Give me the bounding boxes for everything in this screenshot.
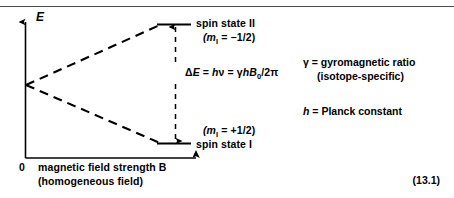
- field-symbol: B: [249, 66, 257, 78]
- lower-energy-line: [26, 85, 160, 143]
- origin-label: 0: [19, 161, 25, 173]
- upper-qn-prefix: (m: [203, 31, 216, 43]
- equals-1: =: [200, 66, 212, 78]
- upper-qn-subscript: I: [216, 37, 218, 46]
- x-axis-sublabel-text: (homogeneous field): [38, 175, 143, 187]
- field-subscript: 0: [257, 72, 261, 81]
- figure-container: E 0 magnetic field strength B (homogeneo…: [0, 0, 454, 198]
- legend-gamma-definition: γ = gyromagnetic ratio: [303, 56, 415, 69]
- lower-qn-value: = +1/2): [218, 124, 255, 136]
- upper-state-quantum-number: (mI = −1/2): [203, 31, 255, 45]
- lower-state-name: spin state I: [196, 138, 252, 151]
- transition-energy-equation: ΔE = hν = γhB0/2π: [185, 66, 278, 80]
- x-axis-label-text: magnetic field strength B: [38, 161, 167, 173]
- equation-tail: /2π: [261, 66, 278, 78]
- upper-qn-value: = −1/2): [218, 31, 255, 43]
- lower-state-quantum-number: (mI = +1/2): [203, 124, 255, 138]
- upper-energy-line: [26, 25, 160, 85]
- legend-gamma-note: (isotope-specific): [317, 70, 404, 83]
- planck-definition-text: = Planck constant: [309, 105, 402, 117]
- energy-symbol: E: [193, 66, 200, 78]
- x-axis-label-line1: magnetic field strength B: [38, 161, 167, 174]
- upper-state-name: spin state II: [196, 17, 255, 30]
- legend-planck-definition: h = Planck constant: [303, 105, 402, 118]
- equals-2: =: [225, 66, 237, 78]
- equation-number: (13.1): [413, 174, 440, 186]
- y-axis-label: E: [36, 10, 44, 24]
- x-axis-label-line2: (homogeneous field): [38, 175, 143, 188]
- lower-qn-prefix: (m: [203, 124, 216, 136]
- gamma-definition-text: = gyromagnetic ratio: [309, 56, 416, 68]
- delta-symbol: Δ: [185, 66, 193, 78]
